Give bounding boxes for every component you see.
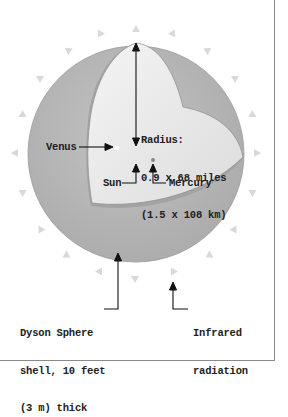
shell-label-line1: Dyson Sphere — [20, 327, 105, 340]
venus-label: Venus — [46, 141, 77, 154]
radius-label-line3: (1.5 x 108 km) — [141, 209, 226, 222]
shell-arrow — [104, 253, 122, 309]
shell-label: Dyson Sphere shell, 10 feet (3 m) thick — [20, 302, 105, 417]
infrared-label-line1: Infrared — [193, 327, 248, 340]
infrared-arrow — [170, 282, 189, 309]
shell-label-line2: shell, 10 feet — [20, 365, 105, 378]
radius-label-line1: Radius: — [141, 134, 226, 147]
venus-dot — [115, 146, 120, 151]
mercury-label: Mercury — [169, 177, 212, 190]
shell-label-line3: (3 m) thick — [20, 402, 105, 415]
infrared-label: Infrared radiation — [193, 302, 248, 390]
sun-label: Sun — [103, 177, 121, 190]
infrared-label-line2: radiation — [193, 365, 248, 378]
radius-label: Radius: 0.9 x 68 miles (1.5 x 108 km) — [141, 109, 226, 234]
